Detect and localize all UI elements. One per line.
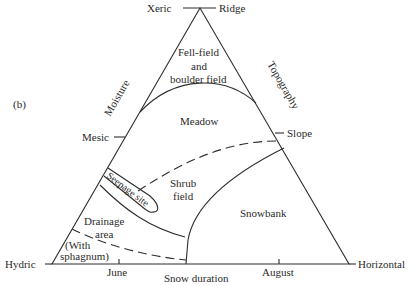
topography-axis-label: Topography: [265, 59, 302, 111]
sphagnum-label-2: sphagnum): [60, 250, 109, 263]
hydric-label: Hydric: [5, 258, 36, 270]
meadow-label: Meadow: [180, 115, 219, 127]
panel-label: (b): [13, 98, 26, 111]
snowbank-boundary: [186, 148, 284, 264]
june-label: June: [107, 266, 127, 278]
shrub-label-1: Shrub: [170, 177, 197, 189]
ridge-label: Ridge: [219, 2, 245, 14]
snowbank-label: Snowbank: [240, 207, 287, 219]
fellfield-label-1: Fell-field: [178, 46, 219, 58]
august-label: August: [262, 266, 294, 278]
shrub-label-2: field: [173, 190, 194, 202]
fellfield-label-3: boulder field: [170, 73, 227, 85]
snow-duration-axis-label: Snow duration: [164, 272, 229, 284]
fellfield-label-2: and: [191, 60, 207, 72]
ternary-diagram: Xeric Ridge Hydric Horizontal (b) Moistu…: [0, 0, 416, 286]
moisture-axis-label: Moisture: [101, 78, 131, 118]
slope-label: Slope: [287, 127, 312, 139]
mesic-label: Mesic: [82, 131, 109, 143]
drainage-label-2: area: [95, 228, 113, 240]
horizontal-label: Horizontal: [358, 258, 405, 270]
seepage-label: Seepage site: [105, 170, 152, 209]
xeric-label: Xeric: [147, 2, 172, 14]
meadow-shrub-dashed-boundary: [138, 141, 281, 191]
drainage-label-1: Drainage: [84, 215, 124, 227]
fellfield-boundary: [140, 83, 256, 112]
